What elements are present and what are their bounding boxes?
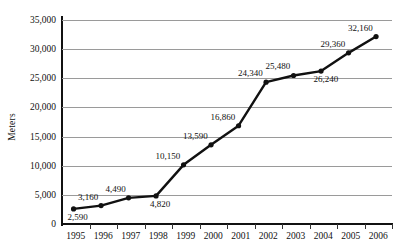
y-axis-tick-label: 10,000: [30, 161, 56, 171]
x-axis-tick-label: 1997: [121, 231, 140, 241]
x-axis-tick: [227, 224, 228, 229]
x-axis-tick-label: 2004: [314, 231, 333, 241]
x-axis-tick: [365, 224, 366, 229]
data-point-label: 2,590: [68, 213, 88, 222]
x-axis-tick-label: 1995: [66, 231, 85, 241]
data-point-label: 4,820: [150, 200, 170, 209]
x-axis-tick: [145, 224, 146, 229]
gridline: [62, 49, 392, 50]
data-point-label: 25,480: [266, 62, 291, 71]
y-axis-tick-label: 15,000: [30, 132, 56, 142]
x-axis-tick: [117, 224, 118, 229]
gridline: [62, 195, 392, 196]
gridline: [62, 137, 392, 138]
data-point-label: 4,490: [106, 185, 126, 194]
x-axis-tick: [172, 224, 173, 229]
x-axis-tick-label: 2006: [369, 231, 388, 241]
x-axis-tick: [90, 224, 91, 229]
gridline: [62, 107, 392, 108]
y-axis-tick-label: 35,000: [30, 15, 56, 25]
x-axis-tick: [392, 224, 393, 229]
y-axis-title-label: Meters: [7, 113, 17, 141]
x-axis-tick-label: 1996: [94, 231, 113, 241]
x-axis-tick-label: 1998: [149, 231, 168, 241]
x-axis-tick-label: 2001: [231, 231, 250, 241]
x-axis-tick-label: 2003: [286, 231, 305, 241]
x-axis-tick: [337, 224, 338, 229]
x-axis-tick: [255, 224, 256, 229]
data-point-label: 32,160: [348, 24, 373, 33]
x-axis-tick-label: 2005: [341, 231, 360, 241]
data-point-label: 16,860: [211, 113, 236, 122]
y-axis-tick-label: 0: [51, 219, 56, 229]
x-axis-tick: [310, 224, 311, 229]
x-axis-tick-label: 1999: [176, 231, 195, 241]
line-chart: Meters 05,00010,00015,00020,00025,00030,…: [0, 0, 404, 252]
y-axis-title: Meters: [4, 92, 20, 162]
y-axis-tick-label: 5,000: [35, 190, 56, 200]
data-point-label: 29,360: [321, 40, 346, 49]
y-axis-tick-label: 25,000: [30, 73, 56, 83]
x-axis-tick-label: 2002: [259, 231, 278, 241]
data-point-label: 3,160: [78, 193, 98, 202]
x-axis-tick: [282, 224, 283, 229]
data-point-label: 26,240: [314, 75, 339, 84]
gridline: [62, 166, 392, 167]
data-point-label: 13,590: [183, 132, 208, 141]
x-axis-tick: [200, 224, 201, 229]
y-axis-tick-label: 30,000: [30, 44, 56, 54]
gridline: [62, 78, 392, 79]
data-point-label: 10,150: [156, 152, 181, 161]
data-point-label: 24,340: [238, 69, 263, 78]
y-axis-tick-label: 20,000: [30, 102, 56, 112]
x-axis-tick-label: 2000: [204, 231, 223, 241]
gridline: [62, 20, 392, 21]
